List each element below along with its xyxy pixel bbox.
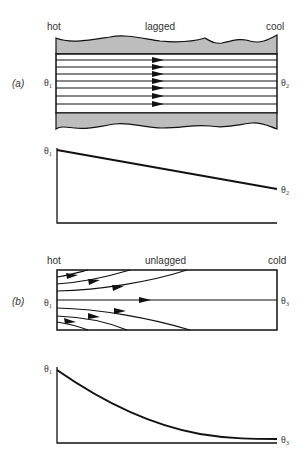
temperature-graph-b: θ₁ θ₃	[44, 363, 289, 445]
cool-label: cool	[266, 21, 284, 32]
theta1-label-a: θ₁	[44, 77, 52, 88]
panel-b: hot unlagged cold (b) θ₁ θ₃ θ₁ θ₃	[12, 255, 289, 445]
graph-a-linear-curve	[57, 150, 277, 189]
panel-b-label: (b)	[12, 296, 24, 307]
panel-a: hot lagged cool (a) θ₁ θ₂	[12, 21, 289, 223]
graph-b-theta1: θ₁	[44, 363, 52, 374]
graph-a-axes	[57, 148, 277, 223]
theta3-label-b: θ₃	[281, 295, 289, 306]
graph-b-theta3: θ₃	[281, 434, 289, 445]
graph-a-theta2: θ₂	[281, 184, 289, 195]
hot-label-b: hot	[47, 255, 61, 266]
theta2-label-a: θ₂	[281, 77, 289, 88]
heat-flow-diagram: hot lagged cool (a) θ₁ θ₂	[0, 0, 306, 456]
graph-a-theta1: θ₁	[44, 145, 52, 156]
graph-b-axes	[57, 367, 277, 443]
bottom-lagging	[56, 113, 277, 129]
lagged-label: lagged	[145, 21, 175, 32]
temperature-graph-a: θ₁ θ₂	[44, 145, 289, 223]
graph-b-decay-curve	[57, 370, 277, 439]
panel-a-label: (a)	[12, 78, 24, 89]
cold-label: cold	[268, 255, 286, 266]
unlagged-label: unlagged	[145, 255, 186, 266]
theta1-label-b: θ₁	[44, 297, 52, 308]
top-lagging	[56, 35, 277, 54]
hot-label-a: hot	[47, 21, 61, 32]
